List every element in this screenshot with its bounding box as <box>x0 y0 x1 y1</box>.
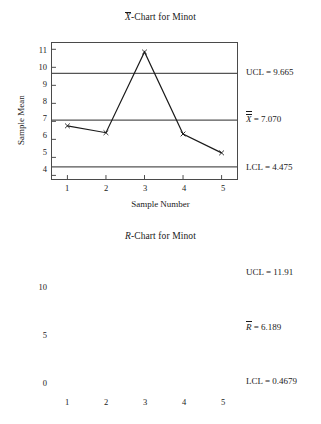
r-xtick-2: 2 <box>98 397 114 407</box>
r-ytick-0: 0 <box>29 378 47 388</box>
r-title-suffix: -Chart for Minot <box>131 231 196 241</box>
xbar-y-axis-title: Sample Mean <box>16 95 26 145</box>
xbar-xtick-3: 3 <box>137 183 153 193</box>
r-center-label: R = 6.189 <box>246 322 281 332</box>
xbar-plot-area <box>51 42 238 180</box>
xbar-title-suffix: -Chart for Minot <box>131 12 196 22</box>
xbar-chart-marker-3 <box>142 50 147 55</box>
xbar-ytick-10: 10 <box>29 62 47 72</box>
xbar-chart: X-Chart for Minot Sample Mean 11 10 9 8 … <box>0 0 321 212</box>
xbar-ytick-6: 6 <box>29 130 47 140</box>
r-center-letter: R <box>246 322 252 332</box>
r-xtick-4: 4 <box>176 397 192 407</box>
xbar-xtick-1: 1 <box>59 183 75 193</box>
xbar-ytick-7: 7 <box>29 113 47 123</box>
xbar-ucl-label: UCL = 9.665 <box>246 67 294 77</box>
xbar-chart-title: X-Chart for Minot <box>0 12 321 22</box>
r-ytick-10: 10 <box>29 282 47 292</box>
xbar-center-label: X = 7.070 <box>246 114 281 124</box>
xbar-ytick-5: 5 <box>29 147 47 157</box>
xbar-chart-marker-5 <box>219 151 224 156</box>
r-center-value: = 6.189 <box>252 322 282 332</box>
r-chart: R-Chart for Minot Sample Range 10 5 0 1 … <box>0 212 321 424</box>
r-xtick-3: 3 <box>137 397 153 407</box>
xbar-ytick-11: 11 <box>29 45 47 55</box>
xbar-xtick-5: 5 <box>215 183 231 193</box>
xbar-x-axis-title: Sample Number <box>0 199 321 209</box>
r-lcl-label: LCL = 0.4679 <box>246 376 297 386</box>
r-xtick-5: 5 <box>215 397 231 407</box>
xbar-ytick-8: 8 <box>29 96 47 106</box>
xbar-xtick-2: 2 <box>98 183 114 193</box>
r-ucl-label: UCL = 11.91 <box>246 267 293 277</box>
xbar-ytick-4: 4 <box>29 164 47 174</box>
xbar-ytick-9: 9 <box>29 79 47 89</box>
xbar-plot-svg <box>52 43 237 179</box>
r-chart-title: R-Chart for Minot <box>0 231 321 241</box>
xbar-chart-marker-4 <box>181 132 186 137</box>
r-xtick-1: 1 <box>59 397 75 407</box>
xbar-center-value: = 7.070 <box>252 114 282 124</box>
xbar-center-letter: X <box>246 114 252 124</box>
r-ytick-5: 5 <box>29 330 47 340</box>
xbar-lcl-label: LCL = 4.475 <box>246 162 293 172</box>
xbar-chart-series-line <box>67 52 221 153</box>
xbar-xtick-4: 4 <box>176 183 192 193</box>
xbar-title-letter: X <box>125 12 131 22</box>
